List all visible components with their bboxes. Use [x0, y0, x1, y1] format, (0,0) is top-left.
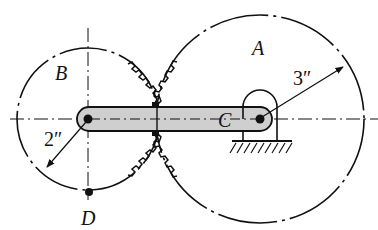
label-gear-a: A — [250, 37, 265, 59]
label-gear-b: B — [55, 62, 67, 84]
pin-b-center — [84, 115, 93, 124]
label-point-d: D — [80, 207, 96, 229]
gear-train-diagram: A B C D 3″ 2″ — [0, 0, 378, 230]
point-d-dot — [85, 188, 93, 196]
label-pivot-c: C — [218, 109, 232, 131]
label-radius-a: 3″ — [293, 67, 311, 89]
label-radius-b: 2″ — [44, 128, 62, 150]
